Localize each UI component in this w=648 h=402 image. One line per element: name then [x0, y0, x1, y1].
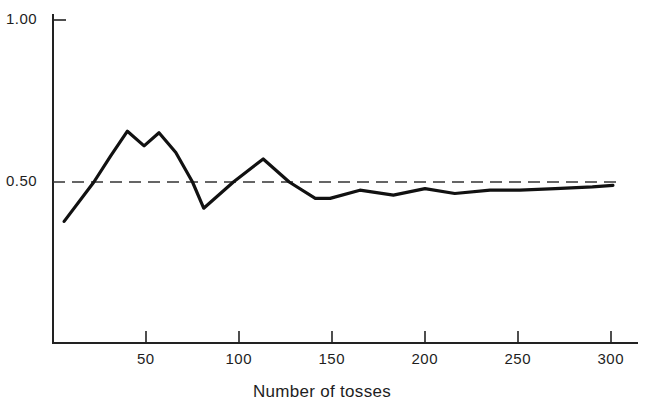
x-tick-label: 50: [137, 350, 155, 367]
x-tick-label: 100: [226, 350, 253, 367]
x-tick-label: 250: [505, 350, 532, 367]
x-axis-label: Number of tosses: [253, 382, 391, 402]
chart-canvas: [0, 0, 648, 402]
x-tick-label: 300: [598, 350, 625, 367]
data-line: [64, 131, 613, 221]
x-tick-label: 150: [319, 350, 346, 367]
y-tick-label: 0.50: [6, 172, 37, 189]
y-tick-label: 1.00: [6, 10, 37, 27]
x-ticks: [146, 331, 611, 343]
x-tick-label: 200: [412, 350, 439, 367]
